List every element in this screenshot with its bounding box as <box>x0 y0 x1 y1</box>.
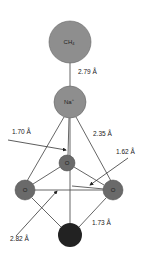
svg-text:O: O <box>23 187 28 193</box>
bond-otop-oleft <box>33 167 60 184</box>
distance-label-1-73: 1.73 Å <box>92 218 111 226</box>
atom-o-top: O <box>59 155 75 171</box>
distance-label-2-35: 2.35 Å <box>93 129 112 137</box>
atom-bottom: Si <box>58 223 82 247</box>
atom-o-right: O <box>103 180 123 200</box>
bond-otop-oright <box>74 167 104 185</box>
bond-inner <box>72 186 104 189</box>
distance-label-2-82: 2.82 Å <box>10 234 29 242</box>
atom-na: Na+ <box>54 86 86 118</box>
bond-na-o-top <box>68 118 69 155</box>
svg-text:CH4: CH4 <box>64 39 76 46</box>
svg-text:O: O <box>111 187 116 193</box>
arrow-1-70 <box>8 140 66 150</box>
distance-label-1-62: 1.62 Å <box>116 147 135 155</box>
distance-label-1-70: 1.70 Å <box>12 127 31 135</box>
atom-o-left: O <box>15 180 35 200</box>
svg-text:O: O <box>65 160 70 166</box>
molecular-structure-diagram: CH4 Na+ O O O Si 2.79 Å 1.70 Å 2.35 Å 1.… <box>0 0 144 258</box>
svg-text:Si: Si <box>67 232 72 238</box>
atom-ch4: CH4 <box>49 21 91 63</box>
distance-label-2-79: 2.79 Å <box>78 67 97 75</box>
